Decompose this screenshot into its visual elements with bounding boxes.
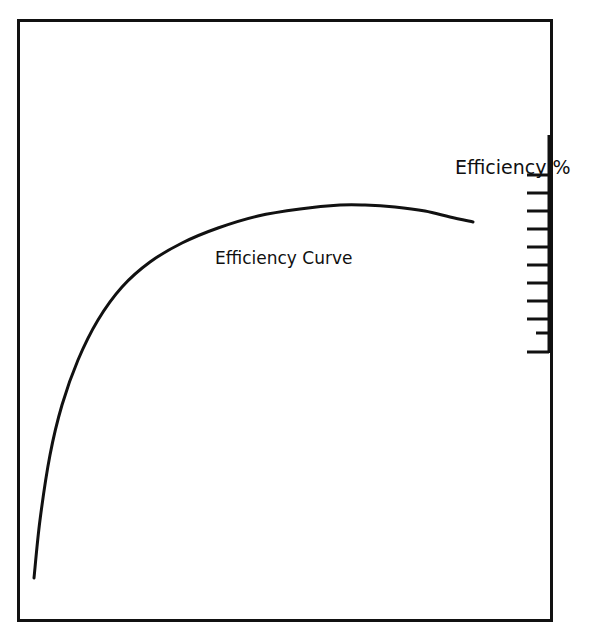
efficiency-axis-ticks (527, 175, 549, 352)
axis-label-efficiency-percent: Efficiency % (455, 156, 571, 178)
efficiency-curve-figure: Efficiency % Efficiency Curve (0, 0, 589, 637)
curve-label-efficiency-curve: Efficiency Curve (215, 248, 352, 268)
plot-canvas: Efficiency % Efficiency Curve (0, 0, 589, 637)
